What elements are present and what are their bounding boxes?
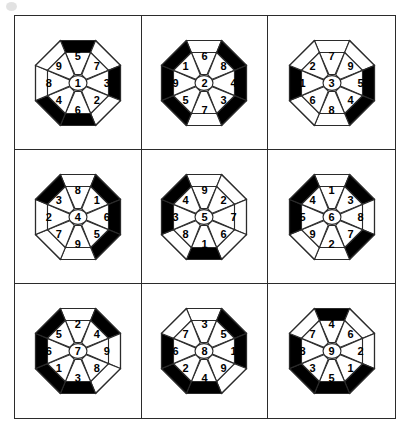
- octagon-rim-segment-w: [162, 65, 174, 100]
- octagon-rim-segment-n: [314, 309, 349, 321]
- grid-cell-r3c2[interactable]: 835194267: [142, 284, 269, 418]
- octagon-hub: [195, 75, 213, 90]
- octagon-hub: [69, 75, 87, 90]
- octagon-shape: [282, 301, 382, 401]
- octagon-rim-segment-w: [35, 65, 47, 100]
- octagon-hub: [323, 209, 341, 224]
- octagon-rim-segment-n: [187, 40, 222, 52]
- octagon-9[interactable]: 946215387: [282, 301, 382, 401]
- octagon-rim-segment-n: [60, 40, 95, 52]
- octagon-hub: [69, 209, 87, 224]
- grid-cell-r1c1[interactable]: 157326489: [15, 16, 142, 150]
- octagon-rim-segment-e: [108, 199, 120, 234]
- figure-root: 1573264892684375913795486124816597235927…: [0, 0, 412, 433]
- octagon-rim-segment-n: [314, 174, 349, 186]
- octagon-rim-segment-e: [235, 199, 247, 234]
- octagon-rim-segment-n: [187, 309, 222, 321]
- octagon-shape: [28, 301, 128, 401]
- octagon-rim-segment-s: [314, 247, 349, 259]
- octagon-rim-segment-w: [35, 199, 47, 234]
- octagon-rim-segment-w: [289, 65, 301, 100]
- octagon-rim-segment-n: [187, 174, 222, 186]
- octagon-rim-segment-n: [60, 309, 95, 321]
- octagon-grid: 1573264892684375913795486124816597235927…: [14, 15, 396, 419]
- octagon-rim-segment-s: [187, 381, 222, 393]
- octagon-hub: [195, 209, 213, 224]
- octagon-rim-segment-w: [289, 199, 301, 234]
- octagon-rim-segment-s: [314, 381, 349, 393]
- octagon-rim-segment-e: [362, 199, 374, 234]
- octagon-4[interactable]: 481659723: [28, 167, 128, 267]
- octagon-5[interactable]: 592761834: [154, 167, 254, 267]
- octagon-rim-segment-e: [362, 65, 374, 100]
- octagon-rim-segment-s: [60, 381, 95, 393]
- octagon-shape: [154, 301, 254, 401]
- grid-cell-r1c3[interactable]: 379548612: [268, 16, 395, 150]
- scan-artifact-speck: [6, 2, 17, 11]
- octagon-rim-segment-s: [60, 113, 95, 125]
- grid-cell-r3c1[interactable]: 724983165: [15, 284, 142, 418]
- grid-cell-r1c2[interactable]: 268437591: [142, 16, 269, 150]
- octagon-shape: [154, 33, 254, 133]
- octagon-6[interactable]: 613872954: [282, 167, 382, 267]
- octagon-rim-segment-w: [35, 333, 47, 368]
- octagon-shape: [282, 33, 382, 133]
- octagon-rim-segment-s: [314, 113, 349, 125]
- octagon-shape: [28, 167, 128, 267]
- octagon-rim-segment-s: [60, 247, 95, 259]
- octagon-rim-segment-w: [162, 199, 174, 234]
- octagon-rim-segment-e: [108, 333, 120, 368]
- octagon-rim-segment-s: [187, 247, 222, 259]
- octagon-shape: [282, 167, 382, 267]
- octagon-8[interactable]: 835194267: [154, 301, 254, 401]
- octagon-3[interactable]: 379548612: [282, 33, 382, 133]
- octagon-rim-segment-n: [314, 40, 349, 52]
- octagon-rim-segment-n: [60, 174, 95, 186]
- octagon-rim-segment-e: [362, 333, 374, 368]
- octagon-hub: [323, 75, 341, 90]
- octagon-rim-segment-e: [108, 65, 120, 100]
- octagon-hub: [323, 344, 341, 359]
- octagon-rim-segment-w: [289, 333, 301, 368]
- octagon-hub: [69, 344, 87, 359]
- grid-cell-r3c3[interactable]: 946215387: [268, 284, 395, 418]
- octagon-2[interactable]: 268437591: [154, 33, 254, 133]
- octagon-hub: [195, 344, 213, 359]
- grid-cell-r2c1[interactable]: 481659723: [15, 150, 142, 284]
- octagon-1[interactable]: 157326489: [28, 33, 128, 133]
- octagon-rim-segment-e: [235, 333, 247, 368]
- grid-cell-r2c3[interactable]: 613872954: [268, 150, 395, 284]
- octagon-rim-segment-w: [162, 333, 174, 368]
- grid-cell-r2c2[interactable]: 592761834: [142, 150, 269, 284]
- octagon-7[interactable]: 724983165: [28, 301, 128, 401]
- octagon-rim-segment-s: [187, 113, 222, 125]
- octagon-shape: [154, 167, 254, 267]
- octagon-rim-segment-e: [235, 65, 247, 100]
- octagon-shape: [28, 33, 128, 133]
